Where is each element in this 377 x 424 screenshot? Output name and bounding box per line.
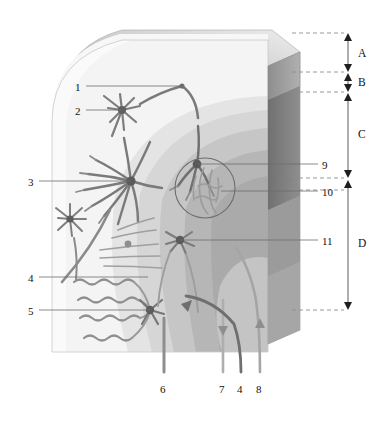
callout-label-bottom-2-4: 4 [237, 384, 243, 395]
bracket-C [344, 93, 352, 178]
callout-leader-lines [39, 86, 318, 310]
callout-label-1: 1 [75, 82, 81, 93]
callout-label-3: 3 [28, 177, 34, 188]
layer-bracket-arrows [344, 33, 352, 310]
diagram-canvas: 12345 91011 6748 ABCD [0, 0, 377, 424]
callout-label-2: 2 [75, 106, 81, 117]
callout-label-11: 11 [322, 236, 333, 247]
bracket-B [344, 73, 352, 92]
callout-label-9: 9 [322, 160, 328, 171]
callout-label-10: 10 [322, 187, 333, 198]
callout-label-bottom-0-6: 6 [160, 384, 166, 395]
callout-label-5: 5 [28, 306, 34, 317]
callout-label-4: 4 [28, 273, 34, 284]
bracket-label-C: C [358, 129, 366, 141]
dashed-guide-lines [292, 33, 344, 310]
bracket-label-B: B [358, 77, 366, 89]
annotation-overlay [0, 0, 377, 424]
bracket-A [344, 33, 352, 72]
bracket-D [344, 180, 352, 310]
callout-label-bottom-1-7: 7 [219, 384, 225, 395]
bracket-label-D: D [358, 238, 366, 250]
callout-label-bottom-3-8: 8 [256, 384, 262, 395]
bracket-label-A: A [358, 48, 366, 60]
